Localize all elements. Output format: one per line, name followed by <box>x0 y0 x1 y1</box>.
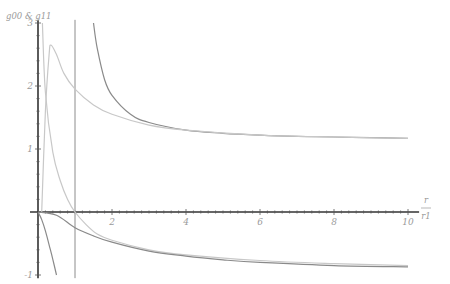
line-chart: 246810-1123g00 & g11rr1 <box>0 0 450 284</box>
axis-labels: 246810-1123g00 & g11rr1 <box>6 11 431 280</box>
curve-steep-dark <box>38 212 57 275</box>
x-tick-label: 6 <box>257 217 263 227</box>
curves <box>38 23 408 275</box>
axes <box>30 20 419 278</box>
x-axis-title-denominator: r1 <box>421 211 430 221</box>
curve-steep-light <box>42 23 408 266</box>
curve-upper-dark <box>94 23 409 138</box>
y-tick-label: 1 <box>27 144 33 154</box>
curve-upper-light <box>42 45 408 212</box>
y-tick-label: -1 <box>24 270 33 280</box>
x-tick-label: 8 <box>331 217 337 227</box>
x-tick-label: 2 <box>108 217 115 227</box>
x-axis-title-numerator: r <box>424 195 429 205</box>
y-tick-label: 2 <box>26 81 33 91</box>
x-tick-label: 10 <box>402 217 414 227</box>
x-tick-label: 4 <box>182 217 189 227</box>
y-axis-title: g00 & g11 <box>6 11 51 21</box>
